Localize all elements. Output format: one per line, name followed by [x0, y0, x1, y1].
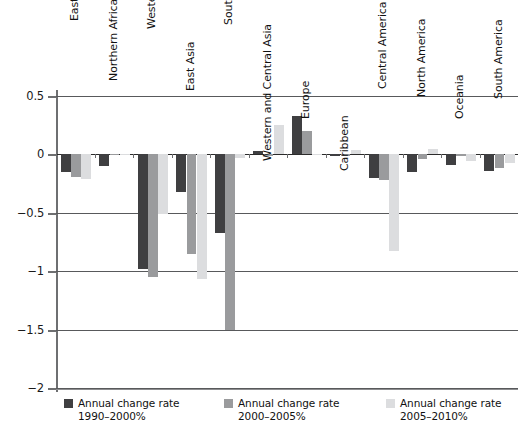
bar — [225, 154, 235, 329]
legend-separator — [56, 389, 518, 390]
legend-label-2000-2005: Annual change rate 2000–2005% — [238, 397, 339, 422]
legend-label-1990-2000: Annual change rate 1990–2000% — [78, 397, 179, 422]
plot-area — [56, 96, 518, 388]
y-axis-tick — [48, 154, 56, 156]
bar — [71, 154, 81, 176]
bar — [495, 154, 505, 168]
legend-label-line1: Annual change rate — [400, 397, 501, 410]
bar — [99, 154, 109, 166]
x-axis-tick — [364, 154, 365, 158]
legend-label-line2: 1990–2000% — [78, 410, 179, 423]
legend-item-2005-2010[interactable]: Annual change rate 2005–2010% — [386, 397, 501, 422]
bar — [484, 154, 494, 170]
bar — [505, 154, 515, 162]
legend-swatch-1990-2000 — [64, 399, 73, 408]
x-axis-tick — [133, 154, 134, 158]
x-axis-tick — [249, 154, 250, 158]
category-label-south-and-southeast-asia: South and Southeast Asia — [223, 0, 234, 25]
x-axis-tick — [480, 154, 481, 158]
bar — [176, 154, 186, 191]
bar — [351, 150, 361, 155]
y-axis-label: −1.5 — [6, 323, 44, 337]
category-label-north-america: North America — [416, 19, 427, 97]
bar — [158, 154, 168, 214]
bar — [187, 154, 197, 253]
category-label-northern-africa: Northern Africa — [108, 0, 119, 81]
y-axis-tick — [48, 388, 56, 390]
bar — [81, 154, 91, 179]
legend-swatch-2005-2010 — [386, 399, 395, 408]
x-axis-tick — [403, 154, 404, 158]
bar — [110, 154, 120, 155]
category-label-eastern-and-southern-africa: Eastern and Southern Africa — [69, 0, 80, 21]
x-axis-tick — [441, 154, 442, 158]
bar — [148, 154, 158, 277]
bar — [274, 125, 284, 154]
y-axis-tick — [48, 96, 56, 98]
bar — [379, 154, 389, 180]
y-axis-label: −1 — [6, 264, 44, 278]
bar — [61, 154, 71, 172]
y-axis-tick — [48, 213, 56, 215]
x-axis-tick — [95, 154, 96, 158]
x-axis-tick — [56, 154, 57, 158]
bar — [292, 116, 302, 155]
bar — [466, 154, 476, 161]
y-axis-label: −0.5 — [6, 206, 44, 220]
bar — [235, 154, 245, 158]
category-label-europe: Europe — [300, 81, 311, 119]
x-axis-tick — [326, 154, 327, 158]
category-label-western-and-central-asia: Western and Central Asia — [262, 24, 273, 161]
category-label-caribbean: Caribbean — [339, 115, 350, 171]
bar — [197, 154, 207, 279]
bar — [446, 154, 456, 165]
y-axis-label: 0.5 — [6, 89, 44, 103]
legend-item-2000-2005[interactable]: Annual change rate 2000–2005% — [224, 397, 339, 422]
bar — [215, 154, 225, 232]
legend-label-line1: Annual change rate — [78, 397, 179, 410]
chart-legend: Annual change rate 1990–2000% Annual cha… — [56, 393, 518, 431]
category-label-oceania: Oceania — [454, 75, 465, 119]
legend-label-line1: Annual change rate — [238, 397, 339, 410]
y-axis-label: 0 — [6, 147, 44, 161]
bar — [369, 154, 379, 177]
bar — [120, 154, 130, 155]
legend-item-1990-2000[interactable]: Annual change rate 1990–2000% — [64, 397, 179, 422]
y-axis-tick — [48, 271, 56, 273]
x-axis-tick — [210, 154, 211, 158]
category-label-south-america: South America — [493, 19, 504, 99]
annual-change-rate-bar-chart: 0.50−0.5−1−1.5−2 Eastern and Southern Af… — [0, 0, 524, 431]
bar — [312, 154, 322, 155]
legend-label-line2: 2000–2005% — [238, 410, 339, 423]
bar — [302, 131, 312, 154]
bar — [418, 154, 428, 159]
legend-label-line2: 2005–2010% — [400, 410, 501, 423]
x-axis-tick — [172, 154, 173, 158]
legend-label-2005-2010: Annual change rate 2005–2010% — [400, 397, 501, 422]
y-axis-tick — [48, 330, 56, 332]
legend-swatch-2000-2005 — [224, 399, 233, 408]
bar — [138, 154, 148, 268]
bar — [407, 154, 417, 172]
category-label-western-and-central-africa: Western and Central Africa — [146, 0, 157, 29]
category-label-central-america: Central America — [377, 2, 388, 89]
category-label-east-asia: East Asia — [185, 42, 196, 91]
bar — [389, 154, 399, 251]
y-axis-label: −2 — [6, 381, 44, 395]
x-axis-tick — [287, 154, 288, 158]
bar — [428, 149, 438, 155]
bar — [456, 154, 466, 155]
